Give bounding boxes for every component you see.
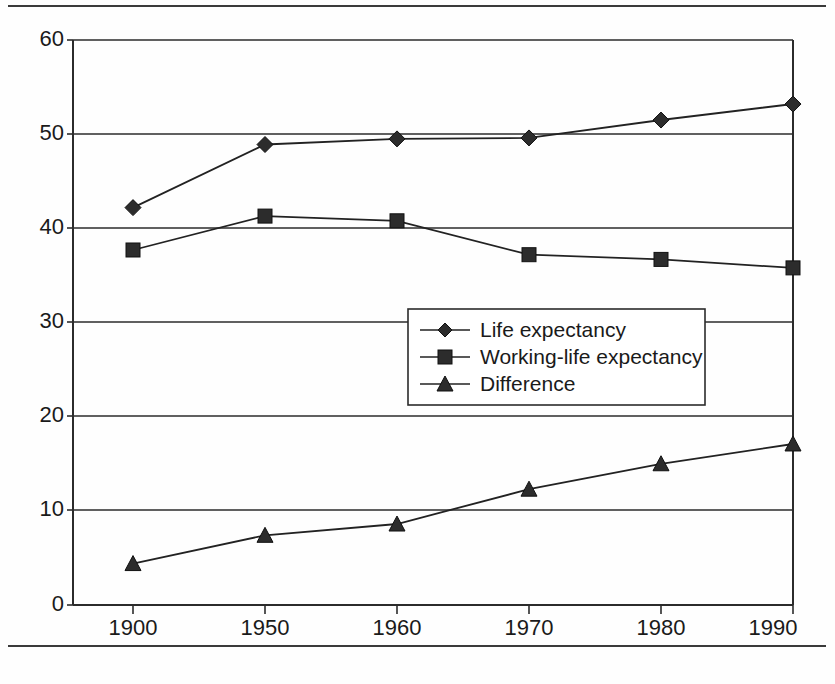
legend-label: Life expectancy — [480, 318, 626, 341]
legend-label: Working-life expectancy — [480, 345, 703, 368]
y-tick-label: 30 — [40, 308, 64, 333]
series-life-expectancy — [125, 96, 801, 216]
y-tick-label: 60 — [40, 26, 64, 51]
x-tick-label: 1990 — [749, 615, 798, 635]
x-tick-label: 1950 — [241, 615, 290, 635]
y-tick-label: 50 — [40, 120, 64, 145]
line-chart: 60 50 40 30 20 10 0 — [0, 20, 835, 635]
y-tick-label: 20 — [40, 402, 64, 427]
square-marker-icon — [786, 261, 800, 275]
legend-label: Difference — [480, 372, 575, 395]
x-tick-label: 1900 — [109, 615, 158, 635]
y-tick-label: 40 — [40, 214, 64, 239]
x-tick-label: 1960 — [373, 615, 422, 635]
series-line — [133, 104, 793, 208]
triangle-marker-icon — [785, 436, 801, 451]
x-tick-marks — [133, 605, 793, 614]
diamond-marker-icon — [257, 137, 273, 153]
chart-canvas: 60 50 40 30 20 10 0 — [0, 20, 835, 635]
diamond-marker-icon — [521, 130, 537, 146]
gridlines — [73, 40, 793, 510]
square-marker-icon — [258, 209, 272, 223]
y-axis-tick-labels: 60 50 40 30 20 10 0 — [40, 26, 64, 616]
triangle-marker-icon — [389, 516, 405, 531]
square-marker-icon — [390, 214, 404, 228]
series-working-life-expectancy — [126, 209, 800, 275]
x-tick-label: 1970 — [505, 615, 554, 635]
x-tick-label: 1980 — [637, 615, 686, 635]
series-line — [133, 444, 793, 564]
y-tick-label: 0 — [52, 591, 64, 616]
series-difference — [125, 436, 801, 571]
chart-legend[interactable]: Life expectancy Working-life expectancy … — [408, 309, 705, 405]
y-tick-label: 10 — [40, 496, 64, 521]
square-marker-icon — [126, 243, 140, 257]
page-rule-bottom — [8, 645, 826, 647]
square-marker-icon — [522, 248, 536, 262]
series-line — [133, 216, 793, 268]
square-marker-icon — [438, 350, 452, 364]
chart-page: 60 50 40 30 20 10 0 — [0, 0, 835, 684]
square-marker-icon — [654, 252, 668, 266]
diamond-marker-icon — [785, 96, 801, 112]
x-axis-tick-labels: 1900 1950 1960 1970 1980 1990 — [109, 615, 798, 635]
diamond-marker-icon — [653, 112, 669, 128]
diamond-marker-icon — [125, 200, 141, 216]
page-rule-top — [8, 5, 826, 7]
